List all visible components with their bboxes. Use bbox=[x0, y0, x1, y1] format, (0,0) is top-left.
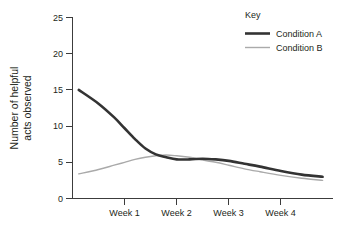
y-axis-title-line1: Number of helpful bbox=[8, 67, 20, 150]
chart-legend: Key Condition A Condition B bbox=[245, 10, 323, 53]
x-tick-label: Week 2 bbox=[161, 208, 191, 218]
chart-canvas: Number of helpful acts observed 0 5 10 1… bbox=[0, 0, 344, 239]
y-axis-title: Number of helpful acts observed bbox=[8, 67, 33, 150]
series-line-condition-a bbox=[79, 90, 323, 177]
y-tick-label: 5 bbox=[58, 157, 63, 167]
y-tick-label: 20 bbox=[53, 49, 63, 59]
y-tick-label: 0 bbox=[58, 194, 63, 204]
y-axis-ticks: 0 5 10 15 20 25 bbox=[53, 13, 73, 204]
y-tick-label: 25 bbox=[53, 13, 63, 23]
legend-title: Key bbox=[245, 10, 261, 20]
x-tick-label: Week 4 bbox=[265, 208, 295, 218]
line-chart: Number of helpful acts observed 0 5 10 1… bbox=[0, 0, 344, 239]
y-axis-title-line2: acts observed bbox=[21, 75, 33, 141]
y-tick-label: 10 bbox=[53, 121, 63, 131]
series-group bbox=[79, 90, 323, 180]
x-tick-label: Week 3 bbox=[213, 208, 243, 218]
x-tick-label: Week 1 bbox=[109, 208, 139, 218]
legend-label-condition-a: Condition A bbox=[276, 29, 322, 39]
y-tick-label: 15 bbox=[53, 85, 63, 95]
legend-label-condition-b: Condition B bbox=[276, 43, 323, 53]
x-axis-ticks: Week 1 Week 2 Week 3 Week 4 bbox=[109, 199, 295, 219]
